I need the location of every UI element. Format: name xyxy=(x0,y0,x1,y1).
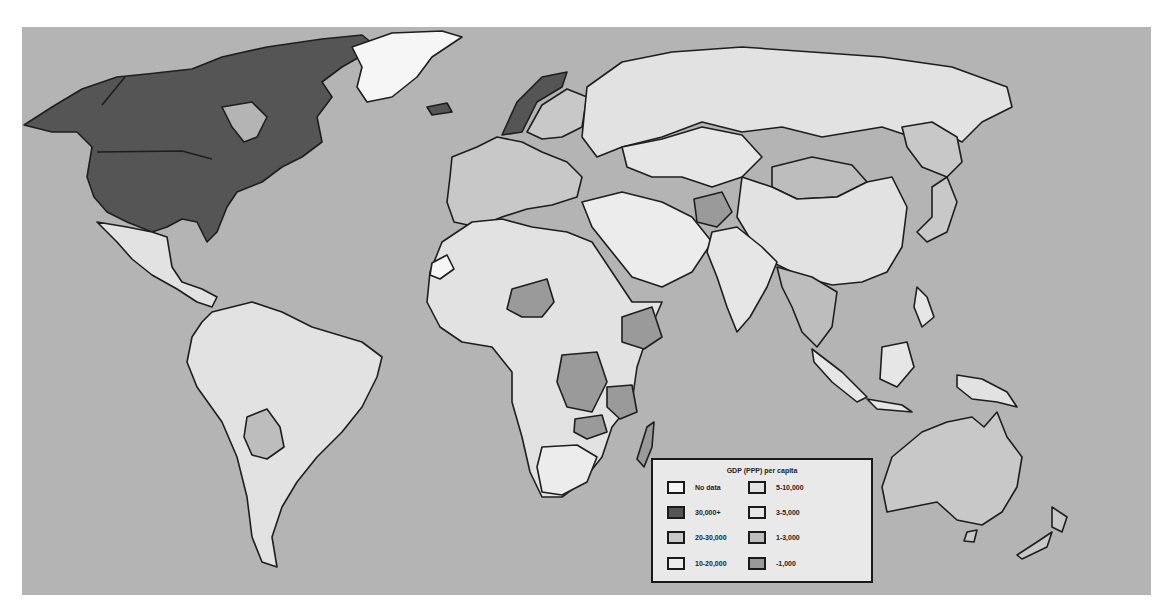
region-mexico xyxy=(97,222,217,307)
legend-swatch xyxy=(667,531,685,544)
region-western-europe xyxy=(447,137,582,227)
region-southern-africa xyxy=(537,445,597,495)
legend-swatch xyxy=(748,506,766,519)
region-new-zealand xyxy=(1017,507,1067,559)
region-australia xyxy=(882,412,1022,525)
legend-label: 20-30,000 xyxy=(695,534,727,541)
legend-item-3-5000: 3-5,000 xyxy=(748,504,800,520)
region-philippines xyxy=(914,287,934,327)
region-greenland xyxy=(352,31,462,102)
region-north-america xyxy=(24,35,377,242)
region-java xyxy=(867,399,912,412)
legend: GDP (PPP) per capita No data 30,000+ 20-… xyxy=(651,458,873,583)
legend-title: GDP (PPP) per capita xyxy=(653,467,871,474)
legend-item-20-30000: 20-30,000 xyxy=(667,529,727,545)
legend-item-1-3000: 1-3,000 xyxy=(748,529,800,545)
legend-label: 30,000+ xyxy=(695,509,721,516)
legend-item-30000-plus: 30,000+ xyxy=(667,504,721,520)
legend-label: 10-20,000 xyxy=(695,560,727,567)
legend-label: No data xyxy=(695,484,721,491)
legend-item-no-data: No data xyxy=(667,479,721,495)
region-sumatra xyxy=(812,349,867,402)
legend-item-5-10000: 5-10,000 xyxy=(748,479,804,495)
legend-swatch xyxy=(667,481,685,494)
region-borneo xyxy=(880,342,914,387)
world-map xyxy=(22,27,1151,595)
region-iceland xyxy=(427,103,452,115)
legend-item-under-1000: -1,000 xyxy=(748,555,796,571)
legend-label: -1,000 xyxy=(776,560,796,567)
region-tasmania xyxy=(964,530,977,542)
map-canvas xyxy=(22,27,1151,595)
legend-swatch xyxy=(748,531,766,544)
region-japan xyxy=(917,177,957,242)
legend-swatch xyxy=(748,481,766,494)
legend-swatch xyxy=(667,506,685,519)
region-afghanistan xyxy=(694,192,732,227)
legend-label: 5-10,000 xyxy=(776,484,804,491)
legend-label: 3-5,000 xyxy=(776,509,800,516)
legend-label: 1-3,000 xyxy=(776,534,800,541)
legend-swatch xyxy=(667,557,685,570)
legend-swatch xyxy=(748,557,766,570)
region-south-america xyxy=(187,302,382,567)
region-new-guinea xyxy=(957,375,1017,407)
legend-item-10-20000: 10-20,000 xyxy=(667,555,727,571)
